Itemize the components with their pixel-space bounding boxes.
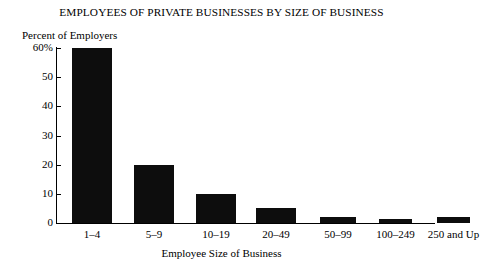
x-axis-line — [56, 223, 435, 224]
bar — [72, 48, 112, 223]
bar — [196, 194, 236, 223]
y-axis-label: Percent of Employers — [22, 29, 117, 41]
y-axis-tick — [56, 106, 61, 107]
y-axis-tick — [56, 165, 61, 166]
y-axis-tick-label-text: 10 — [3, 188, 53, 199]
y-axis-tick-label-text: 30 — [3, 130, 53, 141]
y-axis-tick-label-text: 40 — [3, 100, 53, 111]
y-axis-tick-label-text: 50 — [3, 71, 53, 82]
bar — [320, 217, 356, 223]
y-axis-tick — [56, 223, 61, 224]
bar — [134, 165, 174, 223]
bar — [437, 217, 470, 223]
x-axis-label: Employee Size of Business — [0, 247, 443, 259]
y-axis-tick-label-text: 60% — [3, 42, 53, 53]
y-axis-tick — [56, 136, 61, 137]
y-axis-tick — [56, 77, 61, 78]
y-axis-tick — [56, 194, 61, 195]
y-axis-tick — [56, 48, 61, 49]
bar — [256, 208, 296, 223]
bar — [379, 219, 412, 223]
chart-title: EMPLOYEES OF PRIVATE BUSINESSES BY SIZE … — [0, 6, 443, 18]
y-axis-tick-label-text: 20 — [3, 159, 53, 170]
x-axis-category-label: 250 and Up — [417, 228, 484, 240]
y-axis-tick-label-text: 0 — [3, 217, 53, 228]
